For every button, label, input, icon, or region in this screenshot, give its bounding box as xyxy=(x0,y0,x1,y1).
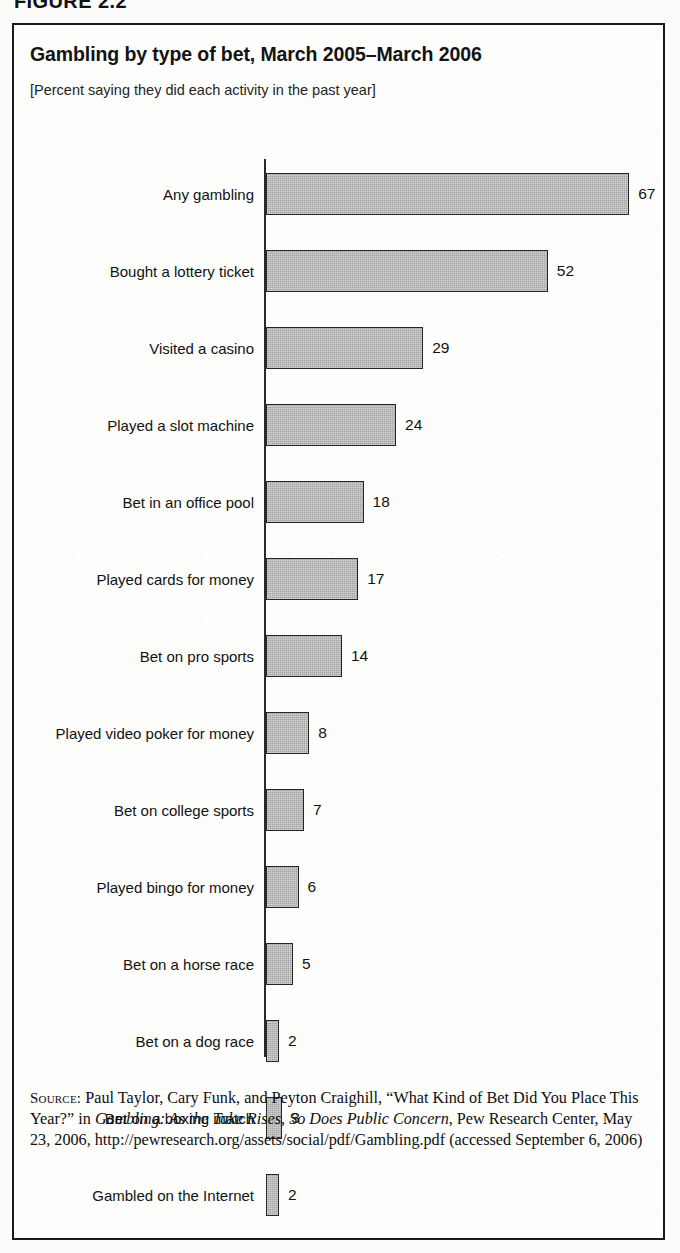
bar xyxy=(266,1020,279,1062)
bar xyxy=(266,635,342,677)
bar-value-label: 7 xyxy=(313,789,322,831)
chart-subtitle: [Percent saying they did each activity i… xyxy=(30,82,376,98)
bar-row: Played bingo for money6 xyxy=(14,849,663,926)
source-note: Source: Paul Taylor, Cary Funk, and Peyt… xyxy=(30,1088,648,1151)
bar xyxy=(266,1174,279,1216)
bar-category-label: Bought a lottery ticket xyxy=(110,233,254,310)
bar xyxy=(266,789,304,831)
bar xyxy=(266,404,396,446)
bar-value-label: 18 xyxy=(373,481,390,523)
bar-chart-plot-area: Any gambling67Bought a lottery ticket52V… xyxy=(14,156,663,1066)
bar-row: Played cards for money17 xyxy=(14,541,663,618)
source-italic-title: Gambling: As the Take Rises, So Does Pub… xyxy=(95,1110,449,1128)
bar-row: Visited a casino29 xyxy=(14,310,663,387)
bar-value-label: 24 xyxy=(405,404,422,446)
source-label: Source: xyxy=(30,1090,81,1106)
bar-row: Bet on college sports7 xyxy=(14,772,663,849)
bar xyxy=(266,250,548,292)
bar-category-label: Bet on college sports xyxy=(114,772,254,849)
bar-value-label: 29 xyxy=(432,327,449,369)
bar-category-label: Bet on pro sports xyxy=(140,618,254,695)
bar xyxy=(266,481,364,523)
bar-row: Played video poker for money8 xyxy=(14,695,663,772)
bar-row: Bet on a horse race5 xyxy=(14,926,663,1003)
bar-category-label: Bet in an office pool xyxy=(123,464,254,541)
bar xyxy=(266,558,358,600)
bar-row: Played a slot machine24 xyxy=(14,387,663,464)
bar xyxy=(266,327,423,369)
bar xyxy=(266,173,629,215)
chart-title: Gambling by type of bet, March 2005–Marc… xyxy=(30,43,482,66)
figure-number: FIGURE 2.2 xyxy=(14,0,127,13)
bar-value-label: 8 xyxy=(318,712,327,754)
figure-box: Gambling by type of bet, March 2005–Marc… xyxy=(12,23,665,1240)
bar-category-label: Bet on a horse race xyxy=(123,926,254,1003)
bar xyxy=(266,712,309,754)
bar xyxy=(266,943,293,985)
bar-value-label: 2 xyxy=(288,1174,297,1216)
bar-category-label: Visited a casino xyxy=(149,310,254,387)
bar-row: Bought a lottery ticket52 xyxy=(14,233,663,310)
bar-value-label: 67 xyxy=(638,173,655,215)
bar-value-label: 17 xyxy=(367,558,384,600)
bar-category-label: Played a slot machine xyxy=(107,387,254,464)
bar xyxy=(266,866,299,908)
bar-category-label: Any gambling xyxy=(163,156,254,233)
bar-category-label: Played video poker for money xyxy=(56,695,254,772)
bar-row: Bet in an office pool18 xyxy=(14,464,663,541)
bar-category-label: Played bingo for money xyxy=(96,849,254,926)
bar-value-label: 52 xyxy=(557,250,574,292)
bar-category-label: Gambled on the Internet xyxy=(92,1157,254,1234)
bar-row: Bet on pro sports14 xyxy=(14,618,663,695)
bar-row: Any gambling67 xyxy=(14,156,663,233)
bar-row: Bet on a dog race2 xyxy=(14,1003,663,1080)
bar-value-label: 5 xyxy=(302,943,311,985)
bar-row: Gambled on the Internet2 xyxy=(14,1157,663,1234)
bar-value-label: 2 xyxy=(288,1020,297,1062)
bar-value-label: 6 xyxy=(308,866,317,908)
bar-category-label: Bet on a dog race xyxy=(136,1003,254,1080)
bar-category-label: Played cards for money xyxy=(96,541,254,618)
bar-value-label: 14 xyxy=(351,635,368,677)
